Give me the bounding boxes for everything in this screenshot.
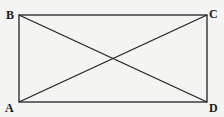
geometry-diagram: B C A D — [0, 0, 224, 117]
vertex-label-b: B — [6, 8, 14, 22]
vertex-label-d: D — [209, 101, 218, 115]
vertex-label-c: C — [209, 7, 218, 21]
vertex-label-a: A — [5, 101, 14, 115]
